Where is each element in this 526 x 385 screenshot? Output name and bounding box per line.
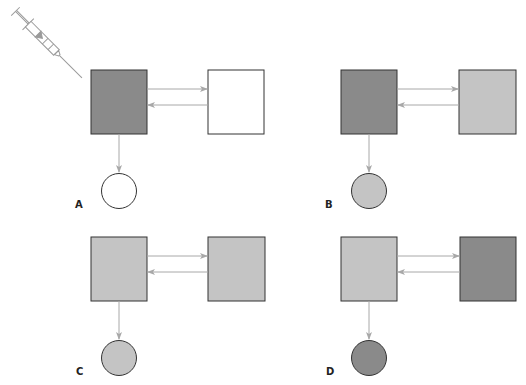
elimination-compartment <box>102 341 137 376</box>
compartment-central <box>341 237 397 301</box>
syringe-icon <box>10 6 88 84</box>
compartment-peripheral <box>208 70 264 134</box>
elimination-compartment <box>352 174 387 209</box>
compartment-central <box>91 70 147 134</box>
panel-a: A <box>75 70 264 210</box>
compartment-diagram: A B C D <box>0 0 526 385</box>
elimination-compartment <box>352 341 387 376</box>
panel-d: D <box>326 237 516 377</box>
compartment-peripheral <box>459 70 516 134</box>
panel-label: A <box>75 199 83 210</box>
compartment-peripheral <box>460 237 516 301</box>
elimination-compartment <box>102 174 137 209</box>
panel-label: C <box>76 366 83 377</box>
panel-b: B <box>325 70 516 210</box>
compartment-central <box>341 70 397 134</box>
panel-label: B <box>325 199 333 210</box>
compartment-central <box>91 237 147 301</box>
compartment-peripheral <box>208 237 265 301</box>
panel-label: D <box>326 366 334 377</box>
panel-c: C <box>76 237 265 377</box>
